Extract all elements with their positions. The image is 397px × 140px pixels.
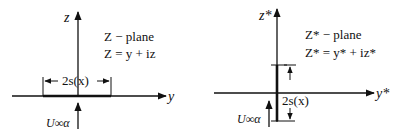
right-plane-equation: Z* = y* + iz* — [305, 45, 376, 60]
left-span-label: 2s(x) — [62, 73, 89, 88]
right-flow-label: U∞α — [237, 112, 261, 126]
left-flow-label: U∞α — [46, 116, 70, 130]
right-y-axis-label: y* — [374, 86, 389, 101]
left-y-axis-label: y — [166, 89, 175, 104]
right-span-label: 2s(x) — [282, 93, 309, 108]
right-z-axis-label: z* — [258, 8, 271, 23]
left-z-axis-label: z — [63, 10, 70, 25]
conformal-mapping-diagram: z y Z − plane Z = y + iz 2s(x) U∞α z* y*… — [0, 0, 397, 140]
left-plane-equation: Z = y + iz — [104, 46, 156, 61]
left-plane-title: Z − plane — [104, 29, 154, 44]
right-panel: z* y* Z* − plane Z* = y* + iz* 2s(x) U∞α — [214, 8, 389, 127]
right-plane-title: Z* − plane — [305, 27, 362, 42]
left-panel: z y Z − plane Z = y + iz 2s(x) U∞α — [12, 10, 175, 130]
